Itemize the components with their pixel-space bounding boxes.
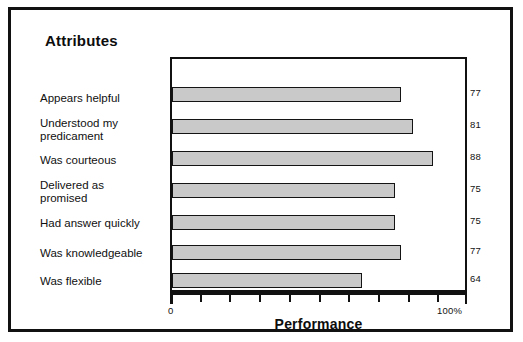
category-axis-labels: Appears helpfulUnderstood mypredicamentW… [40,62,168,290]
category-label-line: Was knowledgeable [40,247,143,259]
bar-value-labels: 77818875757764 [470,57,506,292]
bar-value-label: 77 [470,245,500,256]
x-axis-tick [378,293,380,302]
x-axis-max-label: 100% [437,305,462,316]
bar [172,151,433,166]
category-label: Was flexible [40,275,168,288]
x-axis-tick [408,293,410,302]
bar [172,245,401,260]
bars-container [172,59,465,290]
category-label-line: Delivered as [40,179,104,191]
x-axis-tick [200,293,202,302]
category-label: Delivered aspromised [40,179,168,204]
plot-area [170,57,467,292]
x-axis-tick [437,293,439,302]
bar [172,87,401,102]
x-axis-tick [170,293,173,304]
category-label: Appears helpful [40,92,168,105]
category-label-line: Had answer quickly [40,217,140,229]
bar-value-label: 81 [470,119,500,130]
category-label: Was knowledgeable [40,247,168,260]
x-axis-tick [289,293,291,302]
category-label-line: Was courteous [40,154,116,166]
category-label-line: Understood my [40,117,118,129]
bar [172,273,362,288]
x-axis-tick [348,293,350,302]
category-label-line: Was flexible [40,275,102,287]
category-label: Was courteous [40,154,168,167]
x-axis-tick [319,293,321,302]
bar [172,215,395,230]
x-axis [170,292,467,304]
x-axis-tick [229,293,231,302]
chart-title: Attributes [45,32,118,49]
chart-figure: Attributes Appears helpfulUnderstood myp… [0,0,523,342]
category-label: Understood mypredicament [40,117,168,142]
x-axis-tick [465,293,468,304]
category-label: Had answer quickly [40,217,168,230]
bar [172,183,395,198]
category-label-line: Appears helpful [40,92,120,104]
x-axis-min-label: 0 [168,305,173,316]
bar-value-label: 77 [470,87,500,98]
x-axis-tick [259,293,261,302]
bar [172,119,413,134]
bar-value-label: 75 [470,183,500,194]
category-label-line: promised [40,192,168,205]
category-label-line: predicament [40,130,168,143]
bar-value-label: 75 [470,215,500,226]
bar-value-label: 64 [470,273,500,284]
bar-value-label: 88 [470,151,500,162]
x-axis-title: Performance [170,316,467,332]
